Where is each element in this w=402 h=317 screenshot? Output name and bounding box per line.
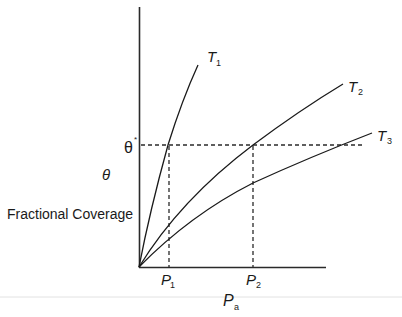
x-axis-label: P a xyxy=(223,292,239,312)
svg-text:*: * xyxy=(134,135,137,144)
svg-text:2: 2 xyxy=(256,280,261,290)
tick-p1: P 1 xyxy=(161,271,175,290)
tick-p2: P 2 xyxy=(246,271,261,290)
label-t1: T 1 xyxy=(207,48,221,68)
y-axis-label: Fractional Coverage xyxy=(7,206,133,222)
svg-text:2: 2 xyxy=(358,87,363,97)
svg-text:P: P xyxy=(246,271,256,288)
theta-symbol: θ xyxy=(102,166,110,183)
svg-text:P: P xyxy=(223,292,234,309)
svg-text:θ: θ xyxy=(124,139,133,156)
svg-text:3: 3 xyxy=(387,136,392,146)
svg-text:1: 1 xyxy=(170,280,175,290)
curve-t1 xyxy=(139,65,198,267)
curve-t3 xyxy=(139,133,372,267)
theta-star-label: θ * xyxy=(124,135,137,156)
isotherm-diagram: T 1 T 2 T 3 θ * θ Fractional Coverage P … xyxy=(0,0,402,317)
svg-text:1: 1 xyxy=(216,58,221,68)
label-t3: T 3 xyxy=(377,127,392,146)
svg-text:a: a xyxy=(234,302,239,312)
label-t2: T 2 xyxy=(348,78,363,97)
